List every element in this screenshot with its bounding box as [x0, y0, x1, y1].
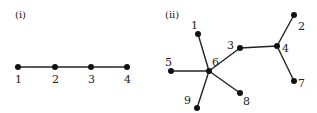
node-4-label: 4 [282, 42, 289, 55]
node-2-label: 2 [52, 73, 59, 86]
node-9-label: 9 [184, 94, 191, 107]
node-3 [237, 45, 243, 51]
node-7-label: 7 [298, 77, 305, 90]
edge-8-6 [209, 71, 240, 93]
node-3 [88, 64, 94, 70]
node-6-label: 6 [212, 56, 219, 69]
graph-diagram: (i) 1 2 3 4 (ii) 1 2 3 4 5 [0, 0, 317, 113]
node-2 [52, 64, 58, 70]
node-9 [194, 105, 200, 111]
node-1-label: 1 [191, 19, 198, 32]
node-2 [291, 12, 297, 18]
panel-i-label: (i) [15, 9, 26, 20]
panel-ii: (ii) 1 2 3 4 5 6 7 8 9 [165, 9, 305, 111]
edge-1-6 [198, 34, 209, 71]
node-5-label: 5 [165, 56, 172, 69]
node-3-label: 3 [88, 73, 95, 86]
node-1-label: 1 [15, 73, 22, 86]
node-1 [15, 64, 21, 70]
node-7 [291, 78, 297, 84]
edge-3-4 [240, 46, 277, 48]
node-2-label: 2 [298, 20, 305, 33]
node-4 [274, 43, 280, 49]
node-3-label: 3 [227, 39, 234, 52]
panel-ii-label: (ii) [165, 9, 179, 20]
node-4 [124, 64, 130, 70]
node-4-label: 4 [124, 73, 131, 86]
edge-9-6 [197, 71, 209, 108]
panel-i: (i) 1 2 3 4 [15, 9, 131, 86]
node-8-label: 8 [243, 95, 250, 108]
